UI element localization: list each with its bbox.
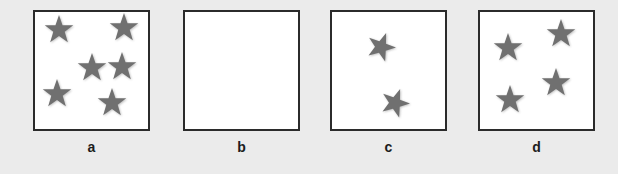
stars-container-a [33,10,150,131]
star-icon [97,88,127,118]
star-icon [109,13,139,43]
star-icon [546,19,576,49]
star-icon [495,85,525,115]
panel-a [33,10,150,131]
star-icon [107,52,137,82]
panel-label-c: c [330,138,447,156]
star-icon [380,88,410,118]
star-icon [366,32,396,62]
star-icon [77,53,107,83]
panel-b [183,10,300,131]
star-icon [42,79,72,109]
panel-label-b: b [183,138,300,156]
stars-container-d [478,10,595,131]
stars-container-b [183,10,300,131]
panel-label-a: a [33,138,150,156]
star-icon [541,68,571,98]
panel-d [478,10,595,131]
star-count-figure: abcd [0,0,618,174]
stars-container-c [330,10,447,131]
star-icon [493,33,523,63]
panel-c [330,10,447,131]
star-icon [44,15,74,45]
panel-label-d: d [478,138,595,156]
